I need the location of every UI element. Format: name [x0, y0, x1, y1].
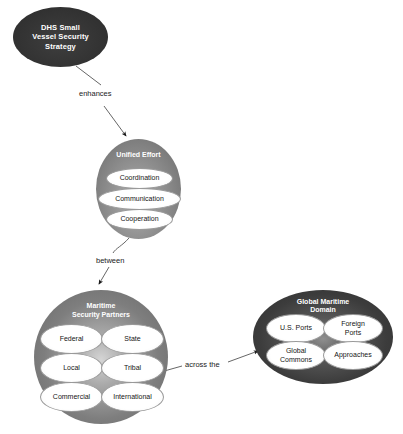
sub-node-global-commons[interactable]: Global Commons	[266, 341, 326, 370]
sub-node-us-ports[interactable]: U.S. Ports	[266, 314, 326, 343]
sub-node-foreign-ports[interactable]: Foreign Ports	[323, 314, 383, 343]
edge-label-between: between	[96, 256, 124, 265]
sub-node-cooperation[interactable]: Cooperation	[106, 209, 173, 230]
node-dhs-small-vessel-security-strategy[interactable]: DHS Small Vessel Security Strategy	[13, 7, 108, 67]
sub-node-local[interactable]: Local	[40, 353, 103, 383]
node-unified-effort[interactable]: Unified Effort Coordination Communicatio…	[96, 139, 181, 239]
diagram-canvas: DHS Small Vessel Security Strategy Unifi…	[0, 0, 403, 434]
edge-enhances-line	[76, 66, 126, 136]
sub-node-coordination[interactable]: Coordination	[106, 168, 173, 189]
sub-node-tribal[interactable]: Tribal	[101, 353, 164, 383]
node-global-maritime-domain[interactable]: Global Maritime Domain U.S. Ports Foreig…	[253, 290, 393, 384]
sub-node-commercial[interactable]: Commercial	[40, 382, 103, 412]
node-global-maritime-domain-label: Global Maritime Domain	[253, 298, 393, 315]
edge-label-across-the: across the	[185, 360, 220, 369]
sub-node-state[interactable]: State	[101, 324, 164, 354]
node-unified-effort-label: Unified Effort	[96, 151, 181, 159]
sub-node-international[interactable]: International	[101, 382, 164, 412]
node-maritime-security-partners[interactable]: Maritime Security Partners Federal State…	[34, 290, 168, 424]
sub-node-communication[interactable]: Communication	[98, 188, 181, 210]
node-maritime-security-partners-label: Maritime Security Partners	[34, 302, 168, 319]
node-dhs-label: DHS Small Vessel Security Strategy	[32, 23, 89, 52]
sub-node-approaches[interactable]: Approaches	[323, 341, 383, 370]
sub-node-federal[interactable]: Federal	[40, 324, 103, 354]
edge-label-enhances: enhances	[79, 89, 112, 98]
